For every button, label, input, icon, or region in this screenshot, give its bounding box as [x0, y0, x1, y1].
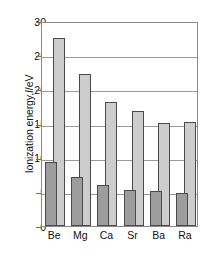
plot-area [41, 22, 198, 227]
gridline [42, 194, 197, 195]
gridline [42, 126, 197, 127]
bar-first-ionization-energy [97, 185, 109, 226]
gridline [42, 160, 197, 161]
ionization-energy-chart: Ionization energy,I/eV 051015202530 BeMg… [0, 0, 209, 273]
y-axis-tick-mark [36, 227, 41, 228]
bar-first-ionization-energy [150, 191, 162, 226]
bar-first-ionization-energy [45, 162, 57, 226]
x-axis-tick-label: Ra [170, 230, 200, 241]
bar-first-ionization-energy [124, 190, 136, 226]
gridline [42, 57, 197, 58]
bar-first-ionization-energy [176, 193, 188, 226]
bar-first-ionization-energy [71, 177, 83, 226]
gridline [42, 91, 197, 92]
